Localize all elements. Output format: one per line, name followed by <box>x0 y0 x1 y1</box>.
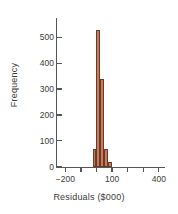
y-axis-line <box>56 18 57 168</box>
y-axis-tick <box>57 88 62 89</box>
x-axis-tick <box>127 168 128 173</box>
x-axis-tick <box>158 168 159 173</box>
y-axis-tick <box>57 63 62 64</box>
x-axis-tick <box>143 168 144 173</box>
x-axis-tick <box>80 168 81 173</box>
histogram-figure: Frequency 0100200300400500−200100400 Res… <box>0 0 178 214</box>
y-axis-tick-label: 400 <box>40 58 54 68</box>
histogram-bar <box>108 162 112 167</box>
y-axis-tick <box>57 166 62 167</box>
y-axis-tick-label: 0 <box>49 162 54 172</box>
y-axis-tick <box>57 37 62 38</box>
x-axis-title: Residuals ($000) <box>0 192 178 202</box>
x-axis-tick-label: −200 <box>56 174 75 184</box>
y-axis-tick-label: 500 <box>40 32 54 42</box>
plot-area: 0100200300400500−200100400 <box>0 0 178 214</box>
y-axis-tick-label: 100 <box>40 136 54 146</box>
y-axis-tick <box>57 140 62 141</box>
y-axis-tick <box>57 114 62 115</box>
y-axis-tick-label: 300 <box>40 84 54 94</box>
x-axis-tick <box>111 168 112 173</box>
y-axis-tick-label: 200 <box>40 110 54 120</box>
x-axis-tick-label: 400 <box>152 174 166 184</box>
x-axis-tick <box>65 168 66 173</box>
x-axis-tick-label: 100 <box>105 174 119 184</box>
x-axis-tick <box>96 168 97 173</box>
